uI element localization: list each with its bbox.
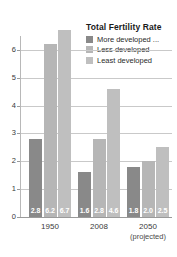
bar-group: 1.82.02.5 (127, 36, 169, 217)
y-tick-label: 4 (2, 102, 16, 110)
y-tick-mark (17, 78, 20, 79)
bar: 1.6 (78, 172, 91, 217)
bar: 2.8 (29, 139, 42, 217)
y-tick-mark (17, 106, 20, 107)
bar-value-label: 6.2 (44, 207, 57, 215)
y-tick-label: 6 (2, 46, 16, 54)
x-axis-label: 2050(projected) (118, 222, 177, 242)
bar: 4.6 (107, 89, 120, 217)
x-axis-line (20, 217, 172, 218)
bar-value-label: 1.8 (127, 207, 140, 215)
x-axis-label-note: (projected) (118, 232, 177, 242)
bar-value-label: 1.6 (78, 207, 91, 215)
y-tick-label: 2 (2, 157, 16, 165)
bar-value-label: 2.0 (142, 207, 155, 215)
y-tick-mark (17, 217, 20, 218)
bar: 2.0 (142, 161, 155, 217)
y-tick-mark (17, 50, 20, 51)
plot-area: 0123456 2.86.26.71.62.84.61.82.02.5 (20, 36, 172, 218)
y-tick-label: 3 (2, 129, 16, 137)
fertility-rate-bar-chart: Total Fertility Rate More developed ... … (0, 0, 177, 257)
x-axis-label-year: 1950 (41, 222, 59, 231)
y-tick-mark (17, 189, 20, 190)
y-tick-label: 5 (2, 74, 16, 82)
x-axis-label-year: 2008 (90, 222, 108, 231)
y-tick-mark (17, 133, 20, 134)
chart-title: Total Fertility Rate (86, 22, 177, 33)
bar-value-label: 2.8 (29, 207, 42, 215)
bar-value-label: 2.5 (156, 207, 169, 215)
bar: 6.7 (58, 30, 71, 217)
y-tick-label: 1 (2, 185, 16, 193)
y-tick-mark (17, 161, 20, 162)
y-tick-label: 0 (2, 213, 16, 221)
x-axis-label-year: 2050 (139, 222, 157, 231)
bar: 1.8 (127, 167, 140, 217)
bar-value-label: 2.8 (93, 207, 106, 215)
bar-group: 1.62.84.6 (78, 36, 120, 217)
bar: 2.8 (93, 139, 106, 217)
y-axis-line (20, 36, 21, 218)
bar-value-label: 6.7 (58, 207, 71, 215)
bar-value-label: 4.6 (107, 207, 120, 215)
bar: 2.5 (156, 147, 169, 217)
bar-group: 2.86.26.7 (29, 36, 71, 217)
bar: 6.2 (44, 44, 57, 217)
